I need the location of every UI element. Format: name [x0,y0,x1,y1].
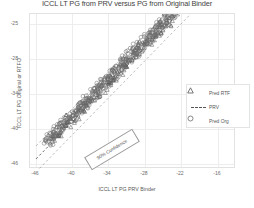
legend-entry-pred-org: Pred Org [187,115,251,127]
y-axis-label: ICCL LT PG Original or RTFO [16,18,22,168]
x-axis-label: ICCL LT PG PRV Binder [0,186,254,192]
chart-legend: Pred RTF PRV Pred Org [186,84,250,128]
x-tick-label: -34 [92,170,122,176]
x-tick-label: -46 [20,170,50,176]
legend-label: Pred RTF [209,91,230,96]
x-tick-label: -16 [202,170,232,176]
x-tick-label: -28 [129,170,159,176]
chart-title: ICCL LT PG from PRV versus PG from Origi… [0,0,254,8]
dashed-line-icon [187,107,209,108]
chart-figure: ICCL LT PG from PRV versus PG from Origi… [0,0,254,208]
x-tick-label: -22 [165,170,195,176]
legend-entry-pred-rtf: Pred RTF [187,87,251,99]
x-tick-label: -40 [56,170,86,176]
legend-label: PRV [209,105,219,110]
legend-entry-prv: PRV [187,101,251,113]
legend-label: Pred Org [209,119,229,124]
